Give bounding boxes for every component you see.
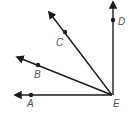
point-d-dot [111, 18, 115, 22]
label-d: D [118, 16, 125, 27]
point-b-dot [36, 63, 40, 67]
point-a-dot [29, 93, 33, 97]
label-a: A [26, 98, 34, 109]
label-c: C [56, 37, 64, 48]
rays-diagram: A B C D E [0, 0, 133, 125]
point-c-dot [63, 30, 67, 34]
label-e-vertex: E [113, 98, 120, 109]
label-b: B [34, 69, 41, 80]
